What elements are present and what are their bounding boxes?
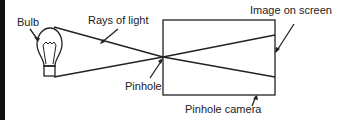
ray-top [54, 27, 163, 57]
ray-bottom-projected [163, 35, 275, 57]
label-bulb: Bulb [17, 17, 39, 28]
label-pinhole: Pinhole [125, 81, 162, 92]
image-leader [276, 24, 294, 52]
camera-box [163, 20, 275, 95]
ray-bottom [54, 57, 163, 77]
ray-top-projected [163, 57, 275, 77]
pinhole-diagram [0, 0, 340, 120]
label-image-on-screen: Image on screen [250, 5, 332, 16]
label-rays-of-light: Rays of light [88, 15, 149, 26]
label-pinhole-camera: Pinhole camera [185, 104, 261, 115]
bulb-icon [37, 28, 62, 76]
